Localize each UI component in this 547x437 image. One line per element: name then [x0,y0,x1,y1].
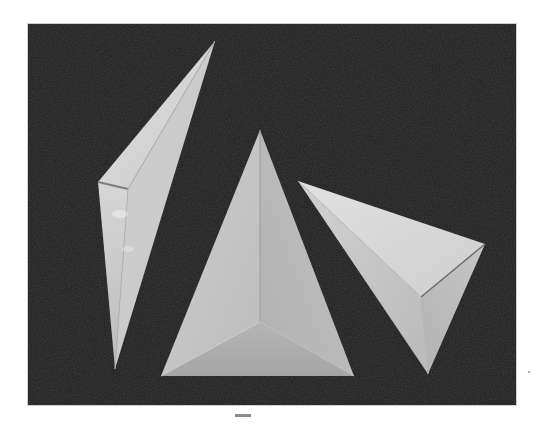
pyramids-illustration [28,24,516,405]
caption-marker [235,414,251,417]
photograph [28,24,516,405]
dust-speck [528,371,530,373]
